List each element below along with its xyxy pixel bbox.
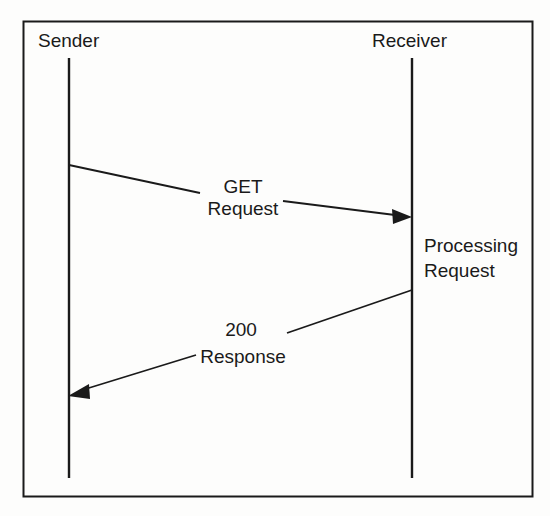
sequence-diagram-svg: Sender Receiver GET Request Processing R… bbox=[0, 0, 550, 516]
annotation-label-processing-request-line-1: Processing bbox=[424, 235, 518, 256]
participant-label-sender: Sender bbox=[38, 30, 100, 51]
message-label-200-response-line-2: Response bbox=[200, 346, 286, 367]
message-label-200-response-line-1: 200 bbox=[225, 319, 257, 340]
participant-label-receiver: Receiver bbox=[372, 30, 448, 51]
message-label-get-request-line-1: GET bbox=[223, 176, 262, 197]
diagram-frame bbox=[24, 22, 533, 497]
sequence-diagram-canvas: Sender Receiver GET Request Processing R… bbox=[0, 0, 550, 516]
message-label-get-request-line-2: Request bbox=[208, 198, 279, 219]
annotation-label-processing-request-line-2: Request bbox=[424, 260, 495, 281]
